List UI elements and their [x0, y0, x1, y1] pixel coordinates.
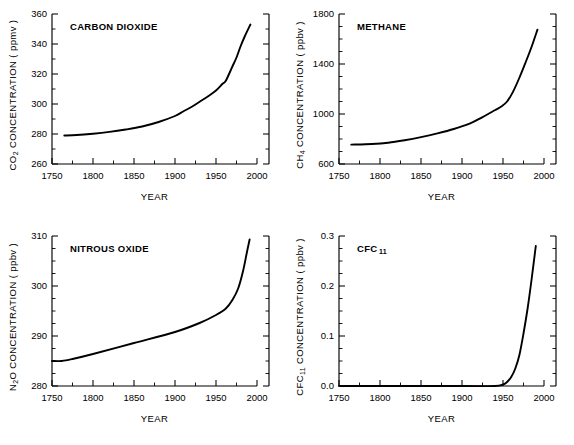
x-tick-label: 1850 — [123, 392, 144, 403]
y-tick-label: 260 — [31, 158, 47, 169]
x-tick-label: 1900 — [451, 392, 472, 403]
x-tick-label: 1900 — [164, 170, 185, 181]
x-axis-title: YEAR — [428, 413, 455, 424]
y-tick-label: 1000 — [313, 108, 334, 119]
x-tick-label: 1900 — [451, 170, 472, 181]
x-tick-label: 1750 — [41, 392, 62, 403]
x-tick-label: 1950 — [205, 392, 226, 403]
x-tick-label: 2000 — [533, 170, 554, 181]
panel-title: NITROUS OXIDE — [70, 243, 149, 254]
x-tick-label: 2000 — [533, 392, 554, 403]
x-tick-label: 1750 — [328, 392, 349, 403]
panel-title: CARBON DIOXIDE — [70, 21, 158, 32]
y-axis-title: CO2 CONCENTRATION ( ppmv ) — [7, 20, 19, 171]
x-tick-label: 1800 — [369, 170, 390, 181]
panel-carbon-dioxide: 2602803003203403601750180018501900195020… — [0, 0, 287, 222]
y-tick-label: 300 — [31, 280, 47, 291]
y-tick-label: 0.0 — [321, 380, 334, 391]
panel-nitrous-oxide: 280290300310175018001850190019502000YEAR… — [0, 222, 287, 444]
x-tick-label: 1850 — [410, 170, 431, 181]
x-tick-label: 1800 — [369, 392, 390, 403]
x-tick-label: 1950 — [492, 170, 513, 181]
x-axis-title: YEAR — [141, 191, 168, 202]
x-tick-label: 1750 — [41, 170, 62, 181]
x-axis-title: YEAR — [141, 413, 168, 424]
y-tick-label: 1400 — [313, 58, 334, 69]
y-tick-label: 360 — [31, 8, 47, 19]
data-curve — [52, 240, 250, 362]
x-tick-label: 2000 — [246, 170, 267, 181]
y-tick-label: 0.1 — [321, 330, 334, 341]
y-tick-label: 1800 — [313, 8, 334, 19]
x-tick-label: 1850 — [410, 392, 431, 403]
y-tick-label: 300 — [31, 98, 47, 109]
panel-title: METHANE — [357, 21, 406, 32]
greenhouse-gas-figure: 2602803003203403601750180018501900195020… — [0, 0, 574, 445]
y-tick-label: 0.3 — [321, 230, 334, 241]
y-tick-label: 280 — [31, 128, 47, 139]
y-axis-title: N2O CONCENTRATION ( ppbv ) — [7, 243, 19, 391]
panel-cfc-11: 0.00.10.20.3175018001850190019502000YEAR… — [287, 222, 574, 444]
data-curve — [351, 30, 537, 145]
y-tick-label: 600 — [318, 158, 334, 169]
panel-title: CFC11 — [357, 243, 387, 255]
y-tick-label: 310 — [31, 230, 47, 241]
y-tick-label: 290 — [31, 330, 47, 341]
x-tick-label: 2000 — [246, 392, 267, 403]
y-tick-label: 280 — [31, 380, 47, 391]
y-axis-title: CFC11 CONCENTRATION ( ppbv ) — [294, 238, 306, 396]
x-axis-title: YEAR — [428, 191, 455, 202]
x-tick-label: 1800 — [82, 170, 103, 181]
x-tick-label: 1750 — [328, 170, 349, 181]
x-tick-label: 1850 — [123, 170, 144, 181]
x-tick-label: 1950 — [205, 170, 226, 181]
y-tick-label: 0.2 — [321, 280, 334, 291]
panel-methane: 600100014001800175018001850190019502000Y… — [287, 0, 574, 222]
y-tick-label: 340 — [31, 38, 47, 49]
y-tick-label: 320 — [31, 68, 47, 79]
y-axis-title: CH4 CONCENTRATION ( ppbv ) — [294, 21, 306, 169]
data-curve — [339, 246, 536, 386]
x-tick-label: 1800 — [82, 392, 103, 403]
x-tick-label: 1950 — [492, 392, 513, 403]
x-tick-label: 1900 — [164, 392, 185, 403]
data-curve — [64, 25, 250, 136]
